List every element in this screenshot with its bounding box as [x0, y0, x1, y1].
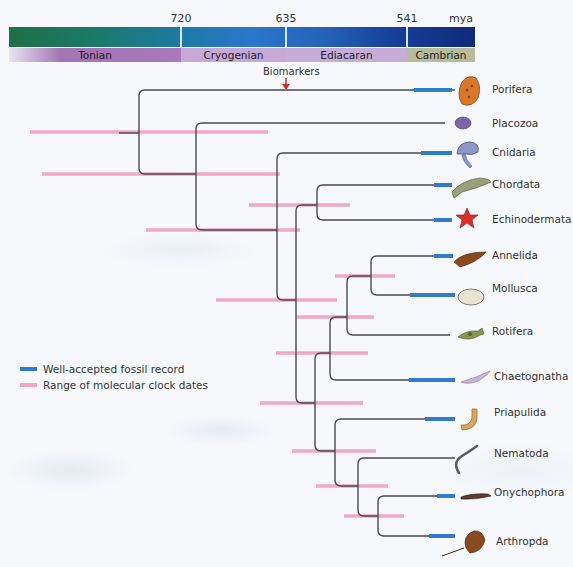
biomarker-arrow-icon [282, 78, 290, 90]
node-annelid-mollusc [371, 256, 453, 276]
node-root [139, 90, 455, 133]
sponge-icon [459, 77, 480, 105]
node-spiralia [330, 317, 347, 353]
taxon-priapulida: Priapulida [494, 406, 546, 418]
rotifer-icon [458, 328, 484, 339]
taxon-echinodermata: Echinodermata [492, 213, 572, 225]
jellyfish-icon [457, 142, 478, 168]
molecular-clock-ranges [30, 132, 404, 516]
tree-branches [119, 90, 455, 536]
node-ecdysozoa [335, 419, 455, 451]
phylogenetic-tree [0, 0, 573, 567]
placozoan-icon [455, 117, 471, 129]
taxon-annelida: Annelida [492, 249, 538, 261]
taxon-cnidaria: Cnidaria [492, 146, 536, 158]
taxon-chaetognatha: Chaetognatha [494, 370, 568, 382]
legend-label-fossil: Well-accepted fossil record [43, 363, 184, 375]
taxon-onychophora: Onychophora [494, 486, 564, 498]
taxon-mollusca: Mollusca [492, 282, 538, 294]
node-lophotrochozoa [347, 276, 371, 317]
legend-item-fossil: Well-accepted fossil record [20, 361, 208, 377]
taxon-porifera: Porifera [492, 83, 533, 95]
starfish-icon [456, 208, 478, 228]
arrow-worm-icon [461, 371, 490, 383]
node-deuterostomia [317, 185, 452, 205]
nematode-icon [456, 446, 477, 473]
taxon-nematoda: Nematoda [494, 447, 549, 459]
taxon-arthropda: Arthropda [496, 535, 549, 547]
velvet-worm-icon [461, 494, 491, 499]
node-nematoda [358, 458, 455, 486]
node-protostomia [315, 353, 330, 403]
taxon-chordata: Chordata [492, 178, 540, 190]
fossil-swatch-icon [20, 367, 37, 371]
node-cnidaria [277, 153, 450, 230]
fish-icon [452, 178, 491, 198]
taxon-rotifera: Rotifera [492, 325, 533, 337]
clock-swatch-icon [20, 383, 37, 387]
node-bilateria-trunk [296, 205, 317, 300]
legend-item-clock: Range of molecular clock dates [20, 377, 208, 393]
legend: Well-accepted fossil record Range of mol… [20, 361, 208, 393]
taxon-placozoa: Placozoa [492, 117, 538, 129]
fossil-records [409, 90, 455, 536]
mollusc-icon [458, 289, 484, 305]
legend-label-clock: Range of molecular clock dates [43, 379, 208, 391]
node-panarthropoda [378, 496, 455, 516]
priapulid-icon [461, 409, 477, 430]
annelid-icon [454, 252, 486, 267]
